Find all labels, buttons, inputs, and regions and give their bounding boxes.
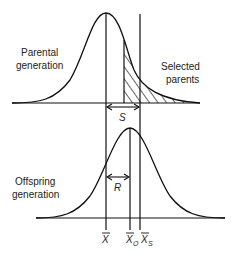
offspring-distribution [36, 128, 225, 230]
mean-xo-label: X O [125, 233, 139, 247]
mean-x-label: X [101, 233, 110, 245]
mean-xs-label: X S [140, 233, 153, 247]
svg-text:O: O [133, 240, 139, 247]
svg-text:X: X [125, 234, 133, 245]
selection-response-diagram: S R Parental generation Selected parents… [0, 0, 235, 254]
svg-text:X: X [140, 234, 148, 245]
selection-differential-arrow [107, 104, 139, 110]
selected-label-line1: Selected [161, 61, 200, 72]
svg-text:S: S [148, 240, 153, 247]
parental-label-line1: Parental [21, 47, 58, 58]
svg-text:X: X [101, 234, 109, 245]
selected-label-line2: parents [166, 74, 199, 85]
s-label: S [119, 112, 126, 123]
r-label: R [114, 182, 121, 193]
parental-label-line2: generation [16, 60, 63, 71]
offspring-label-line2: generation [12, 189, 59, 200]
offspring-label-line1: Offspring [15, 176, 55, 187]
response-arrow [107, 174, 129, 180]
